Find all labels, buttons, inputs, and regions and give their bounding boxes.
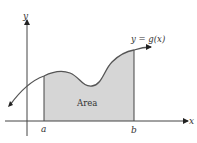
curve-label: y = g(x) — [130, 34, 165, 44]
area-diagram: y x y = g(x) Area a b — [0, 0, 197, 143]
region-label: Area — [76, 98, 97, 108]
bound-label-b: b — [131, 125, 137, 135]
bound-label-a: a — [41, 124, 46, 134]
x-axis-label: x — [189, 116, 194, 126]
y-axis-label: y — [22, 11, 29, 21]
